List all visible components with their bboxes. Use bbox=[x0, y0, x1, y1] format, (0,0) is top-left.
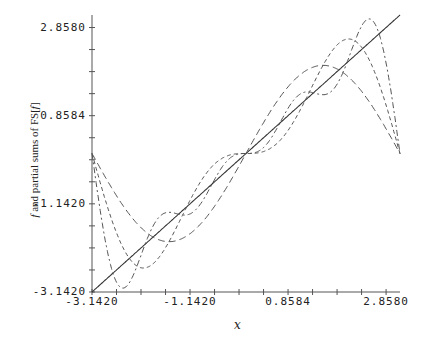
x-tick-label: -3.1420 bbox=[65, 295, 118, 308]
curves bbox=[92, 15, 400, 292]
y-tick-label: 0.8584 bbox=[6, 109, 86, 122]
x-tick-label: 0.8584 bbox=[265, 295, 311, 308]
x-tick-label: 2.8580 bbox=[363, 295, 409, 308]
y-axis-label: f and partial sums of FS[f] bbox=[28, 102, 40, 217]
x-tick-label: -1.1420 bbox=[163, 295, 216, 308]
x-axis-label: x bbox=[234, 318, 241, 332]
y-tick-label: 2.8580 bbox=[6, 21, 86, 34]
line-partial-sum-4 bbox=[92, 19, 400, 288]
y-tick-label: -1.1420 bbox=[6, 197, 86, 210]
